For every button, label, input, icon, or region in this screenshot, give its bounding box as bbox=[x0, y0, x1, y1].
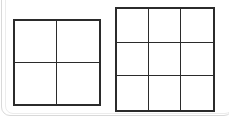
grid-figure-3x3[interactable] bbox=[115, 7, 215, 112]
grid-cell[interactable] bbox=[117, 43, 149, 77]
grid-cell[interactable] bbox=[15, 63, 57, 105]
grid-cell[interactable] bbox=[181, 43, 213, 77]
grid-cell[interactable] bbox=[117, 9, 149, 43]
grid-cell[interactable] bbox=[149, 43, 181, 77]
grid-cell[interactable] bbox=[15, 21, 57, 63]
diagram-canvas bbox=[0, 0, 229, 120]
grid-cell[interactable] bbox=[117, 76, 149, 110]
grid-cell[interactable] bbox=[181, 76, 213, 110]
grid-cell[interactable] bbox=[149, 76, 181, 110]
grid-cell[interactable] bbox=[57, 21, 99, 63]
grid-figure-2x2[interactable] bbox=[13, 19, 101, 106]
grid-cell[interactable] bbox=[181, 9, 213, 43]
grid-cell[interactable] bbox=[149, 9, 181, 43]
grid-cell[interactable] bbox=[57, 63, 99, 105]
